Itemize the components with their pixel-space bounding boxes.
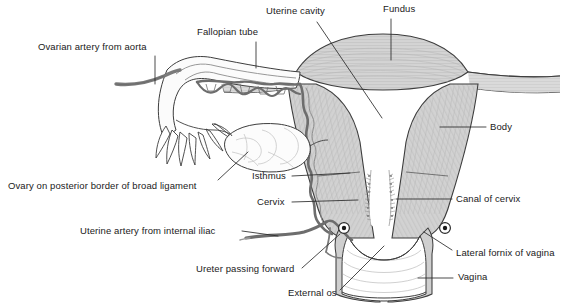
label-external-os: External os <box>288 288 337 298</box>
fimbriae <box>156 124 235 166</box>
leader-ureter <box>302 234 340 268</box>
label-ovarian-artery-from-aorta: Ovarian artery from aorta <box>38 42 147 52</box>
label-canal-of-cervix: Canal of cervix <box>456 194 520 204</box>
label-vagina: Vagina <box>458 272 487 282</box>
fundus-structure <box>296 34 468 90</box>
label-body: Body <box>490 122 512 132</box>
label-isthmus: Isthmus <box>252 171 286 181</box>
label-ureter-passing-forward: Ureter passing forward <box>196 264 294 274</box>
uterus-body-right-wall <box>392 84 478 238</box>
anatomical-figure: Ovarian artery from aorta Fallopian tube… <box>0 0 569 307</box>
label-lateral-fornix-of-vagina: Lateral fornix of vagina <box>456 248 555 258</box>
label-ovary-broad-ligament: Ovary on posterior border of broad ligam… <box>8 181 197 191</box>
label-uterine-cavity: Uterine cavity <box>266 6 325 16</box>
label-fallopian-tube: Fallopian tube <box>197 27 258 37</box>
label-fundus: Fundus <box>383 4 415 14</box>
ureter-left-marker <box>339 223 350 234</box>
ureter-right-marker <box>440 223 451 234</box>
label-uterine-artery: Uterine artery from internal iliac <box>80 226 215 236</box>
label-cervix: Cervix <box>257 197 285 207</box>
